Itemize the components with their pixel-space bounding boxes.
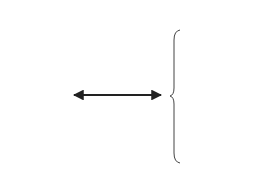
diagram-canvas bbox=[0, 0, 279, 191]
curly-brace bbox=[170, 30, 180, 163]
